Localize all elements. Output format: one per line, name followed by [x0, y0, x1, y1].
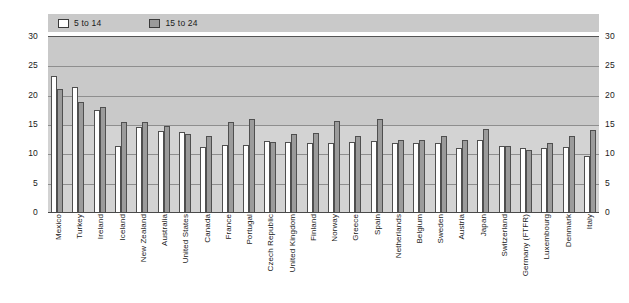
- bar: [419, 140, 425, 213]
- bar: [249, 119, 255, 213]
- x-axis-label: Australia: [160, 214, 169, 246]
- bar-group: [222, 37, 234, 213]
- bar: [78, 102, 84, 213]
- y-tick-left-25: 25: [8, 60, 42, 70]
- bar-group: [541, 37, 553, 213]
- bar-group: [520, 37, 532, 213]
- legend-label-5-to-14: 5 to 14: [74, 18, 101, 28]
- white-square-icon: [58, 19, 69, 28]
- bar: [569, 136, 575, 213]
- x-label-slot: Japan: [476, 214, 490, 302]
- x-label-slot: Norway: [327, 214, 341, 302]
- x-axis-label: Belgium: [414, 214, 423, 244]
- bar-group: [285, 37, 297, 213]
- bar-group: [200, 37, 212, 213]
- x-axis-label: Canada: [202, 214, 211, 243]
- x-label-slot: United Kingdom: [285, 214, 299, 302]
- bar: [313, 133, 319, 213]
- y-tick-left-10: 10: [8, 148, 42, 158]
- bar: [164, 126, 170, 213]
- bar-group: [584, 37, 596, 213]
- bar: [270, 142, 276, 213]
- y-tick-right-20: 20: [601, 90, 629, 100]
- x-axis-label: Greece: [351, 214, 360, 241]
- bar: [441, 136, 447, 213]
- bar: [206, 136, 212, 213]
- x-axis-label: Ireland: [96, 214, 105, 239]
- x-axis-labels: MexicoTurkeyIrelandIcelandNew ZealandAus…: [48, 214, 599, 302]
- bar: [547, 143, 553, 213]
- bar-group: [392, 37, 404, 213]
- bar: [185, 134, 191, 213]
- y-tick-left-20: 20: [8, 90, 42, 100]
- x-axis-label: New Zealand: [138, 214, 147, 262]
- y-axis-left: 302520151050: [8, 36, 42, 212]
- x-axis-label: Germany (FTFR): [521, 214, 530, 276]
- x-label-slot: New Zealand: [136, 214, 150, 302]
- x-label-slot: Australia: [157, 214, 171, 302]
- x-axis-label: Spain: [372, 214, 381, 235]
- bar: [228, 122, 234, 213]
- bar-group: [563, 37, 575, 213]
- x-label-slot: Greece: [348, 214, 362, 302]
- x-label-slot: Sweden: [433, 214, 447, 302]
- plot-area: [48, 36, 599, 213]
- x-axis-label: Norway: [330, 214, 339, 242]
- bar-group: [51, 37, 63, 213]
- x-axis-label: Turkey: [75, 214, 84, 239]
- x-label-slot: Belgium: [412, 214, 426, 302]
- bar: [590, 130, 596, 213]
- bar-group: [371, 37, 383, 213]
- x-axis-label: France: [223, 214, 232, 240]
- bar: [377, 119, 383, 213]
- x-axis-label: United Kingdom: [287, 214, 296, 272]
- x-label-slot: Portugal: [242, 214, 256, 302]
- bar-group: [499, 37, 511, 213]
- bar-group: [413, 37, 425, 213]
- legend-label-15-to-24: 15 to 24: [165, 18, 197, 28]
- x-axis-label: Sweden: [436, 214, 445, 244]
- x-axis-label: Japan: [478, 214, 487, 236]
- bar-group: [136, 37, 148, 213]
- bar: [334, 121, 340, 213]
- x-label-slot: United States: [178, 214, 192, 302]
- y-tick-right-5: 5: [601, 178, 629, 188]
- x-axis-line: [48, 212, 599, 213]
- x-axis-label: Iceland: [117, 214, 126, 241]
- y-axis-right: 302520151050: [601, 36, 629, 212]
- x-axis-label: Italy: [584, 214, 593, 229]
- bar: [121, 122, 127, 213]
- bar: [526, 150, 532, 213]
- x-label-slot: Ireland: [93, 214, 107, 302]
- x-axis-label: Portugal: [245, 214, 254, 245]
- bar-group: [435, 37, 447, 213]
- x-axis-label: Netherlands: [393, 214, 402, 258]
- chart-legend: 5 to 14 15 to 24: [48, 14, 599, 32]
- x-label-slot: France: [221, 214, 235, 302]
- y-tick-right-25: 25: [601, 60, 629, 70]
- x-label-slot: Austria: [454, 214, 468, 302]
- x-label-slot: Czech Republic: [263, 214, 277, 302]
- x-axis-label: Denmark: [563, 214, 572, 247]
- bar: [398, 140, 404, 213]
- y-tick-left-0: 0: [8, 207, 42, 217]
- bar: [57, 89, 63, 213]
- x-label-slot: Canada: [200, 214, 214, 302]
- legend-entry-15-to-24: 15 to 24: [149, 18, 197, 28]
- bar-group: [307, 37, 319, 213]
- x-axis-label: Luxembourg: [542, 214, 551, 259]
- y-tick-left-30: 30: [8, 31, 42, 41]
- bar: [462, 140, 468, 213]
- y-tick-right-15: 15: [601, 119, 629, 129]
- bar-chart: 5 to 14 15 to 24 302520151050 3025201510…: [0, 0, 629, 303]
- bar-group: [72, 37, 84, 213]
- x-axis-label: Switzerland: [499, 214, 508, 256]
- x-label-slot: Turkey: [72, 214, 86, 302]
- x-label-slot: Germany (FTFR): [518, 214, 532, 302]
- bar-group: [328, 37, 340, 213]
- y-tick-left-15: 15: [8, 119, 42, 129]
- x-label-slot: Switzerland: [497, 214, 511, 302]
- bar: [483, 129, 489, 213]
- x-label-slot: Iceland: [115, 214, 129, 302]
- bar: [505, 146, 511, 213]
